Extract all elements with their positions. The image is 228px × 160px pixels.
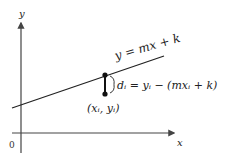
x-axis-label: x bbox=[177, 137, 183, 148]
point-label: (xᵢ, yᵢ) bbox=[87, 102, 119, 115]
line-point bbox=[102, 72, 107, 77]
residual-label: dᵢ = yᵢ − (mxᵢ + k) bbox=[117, 79, 217, 92]
regression-diagram: y x 0 y = mx + k dᵢ = yᵢ − (mxᵢ + k) (xᵢ… bbox=[0, 0, 228, 160]
y-axis-label: y bbox=[18, 8, 25, 19]
line-equation-label: y = mx + k bbox=[112, 31, 182, 63]
residual-brace bbox=[110, 76, 114, 93]
origin-label: 0 bbox=[9, 140, 15, 150]
data-point bbox=[102, 91, 107, 96]
